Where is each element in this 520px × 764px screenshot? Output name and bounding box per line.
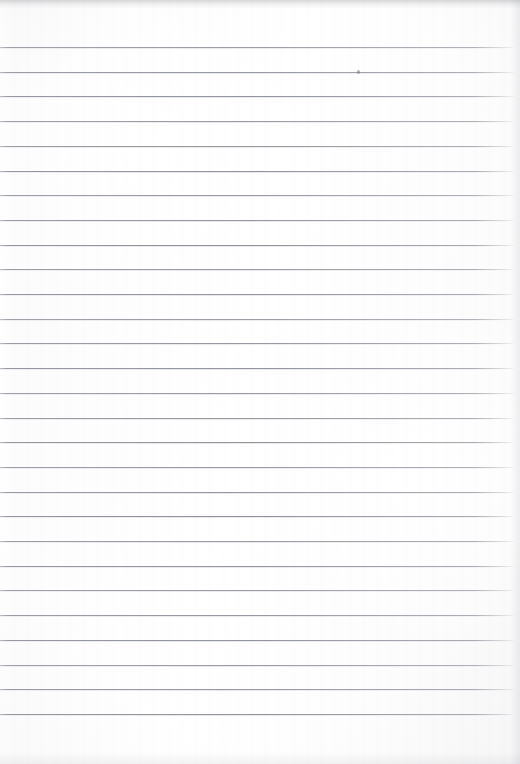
ruled-lines-layer <box>0 0 520 764</box>
ruled-line <box>0 368 515 369</box>
ruled-line <box>0 146 515 147</box>
top-edge-shadow <box>0 0 520 9</box>
ruled-line <box>0 269 515 270</box>
ruled-line <box>0 665 515 666</box>
ruled-line <box>0 467 515 468</box>
ruled-line <box>0 615 515 616</box>
ruled-line <box>0 195 515 196</box>
ruled-line <box>0 418 515 419</box>
ruled-line <box>0 640 515 641</box>
ruled-line <box>0 171 515 172</box>
ruled-line <box>0 566 515 567</box>
ruled-line <box>0 96 515 97</box>
ruled-line <box>0 393 515 394</box>
ruled-line <box>0 541 515 542</box>
ruled-line <box>0 442 515 443</box>
scanned-page <box>0 0 520 764</box>
ruled-line <box>0 121 515 122</box>
ruled-line <box>0 714 515 715</box>
ruled-line <box>0 220 515 221</box>
ruled-line <box>0 343 515 344</box>
pencil-speck-icon <box>357 70 360 74</box>
right-edge-shadow <box>510 0 520 764</box>
ruled-line <box>0 72 515 73</box>
ruled-line <box>0 47 515 48</box>
ruled-line <box>0 294 515 295</box>
bottom-edge-shadow <box>0 752 520 764</box>
ruled-line <box>0 492 515 493</box>
ruled-line <box>0 516 515 517</box>
ruled-line <box>0 319 515 320</box>
ruled-line <box>0 689 515 690</box>
ruled-line <box>0 245 515 246</box>
ruled-line <box>0 590 515 591</box>
